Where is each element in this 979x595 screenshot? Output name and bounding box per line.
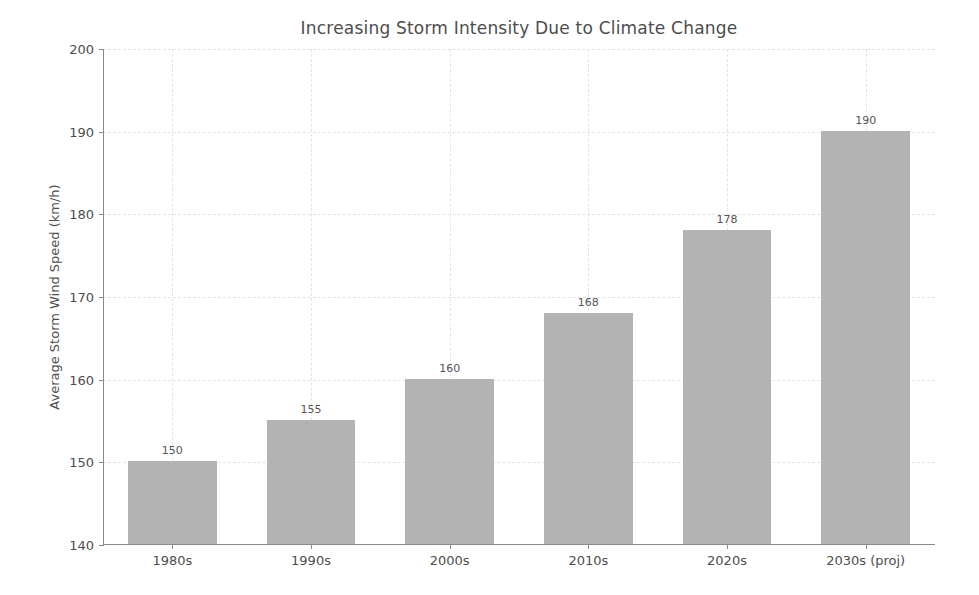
bar-value-label: 155 xyxy=(301,403,322,416)
x-tick-label: 2020s xyxy=(707,553,747,568)
y-tick-mark xyxy=(99,380,103,381)
gridline-horizontal xyxy=(103,462,935,463)
x-tick-label: 1990s xyxy=(291,553,331,568)
bar-value-label: 150 xyxy=(162,444,183,457)
x-axis-spine xyxy=(103,544,935,545)
x-tick-mark xyxy=(311,545,312,549)
bar[interactable] xyxy=(405,379,494,544)
x-tick-mark xyxy=(172,545,173,549)
x-tick-mark xyxy=(866,545,867,549)
y-tick-mark xyxy=(99,214,103,215)
gridline-horizontal xyxy=(103,49,935,50)
bar[interactable] xyxy=(683,230,772,544)
y-tick-label: 200 xyxy=(69,42,94,57)
y-tick-label: 160 xyxy=(69,372,94,387)
plot-inner: 150155160168178190 140150160170180190200… xyxy=(103,49,935,545)
y-tick-label: 170 xyxy=(69,290,94,305)
bar-value-label: 178 xyxy=(717,213,738,226)
bar[interactable] xyxy=(544,313,633,544)
bar-value-label: 190 xyxy=(855,114,876,127)
plot-area: 150155160168178190 140150160170180190200… xyxy=(103,49,935,545)
y-tick-mark xyxy=(99,132,103,133)
y-tick-label: 180 xyxy=(69,207,94,222)
bar-value-label: 168 xyxy=(578,296,599,309)
bar[interactable] xyxy=(821,131,910,544)
x-tick-mark xyxy=(450,545,451,549)
x-tick-mark xyxy=(588,545,589,549)
y-tick-label: 140 xyxy=(69,538,94,553)
x-tick-label: 2030s (proj) xyxy=(826,553,905,568)
x-tick-mark xyxy=(727,545,728,549)
gridline-horizontal xyxy=(103,380,935,381)
y-tick-mark xyxy=(99,462,103,463)
gridline-horizontal xyxy=(103,132,935,133)
bar-value-label: 160 xyxy=(439,362,460,375)
y-tick-mark xyxy=(99,49,103,50)
bar[interactable] xyxy=(128,461,217,544)
chart-figure: Increasing Storm Intensity Due to Climat… xyxy=(0,0,979,595)
x-tick-label: 2000s xyxy=(430,553,470,568)
x-tick-label: 1980s xyxy=(152,553,192,568)
gridline-horizontal xyxy=(103,214,935,215)
y-tick-label: 190 xyxy=(69,124,94,139)
y-tick-mark xyxy=(99,297,103,298)
chart-title: Increasing Storm Intensity Due to Climat… xyxy=(103,18,935,38)
y-tick-label: 150 xyxy=(69,455,94,470)
x-tick-label: 2010s xyxy=(568,553,608,568)
gridline-horizontal xyxy=(103,297,935,298)
y-axis-label: Average Storm Wind Speed (km/h) xyxy=(44,49,66,545)
y-tick-mark xyxy=(99,545,103,546)
y-axis-spine xyxy=(103,49,104,546)
bar[interactable] xyxy=(267,420,356,544)
